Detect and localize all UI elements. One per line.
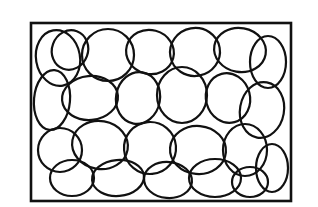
scribble-drawing (0, 0, 318, 207)
scribble-loop (46, 25, 94, 75)
scribble-loop (50, 160, 94, 196)
scribble-loop (250, 36, 286, 88)
scribble-loop (157, 67, 207, 123)
scribble-loop (200, 68, 255, 128)
scribble-loops (31, 24, 288, 200)
scribble-loop (232, 167, 268, 197)
scribble-loop (31, 69, 72, 132)
scribble-loop (38, 128, 82, 172)
